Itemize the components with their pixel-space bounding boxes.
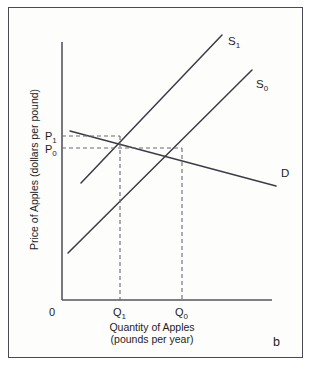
supply-demand-chart: Price of Apples (dollars per pound) P1 P… <box>0 0 311 368</box>
figure-root: Price of Apples (dollars per pound) P1 P… <box>0 0 311 368</box>
curve-label-s1: S1 <box>228 35 241 50</box>
x-axis-title: Quantity of Apples <box>109 321 194 333</box>
curve-label-s1-sub: 1 <box>236 41 241 50</box>
demand-curve-d <box>70 131 276 186</box>
curve-label-d: D <box>281 167 289 179</box>
curve-label-s0: S0 <box>256 78 269 93</box>
y-tick-label-p1-text: P <box>45 130 52 142</box>
x-axis-units: (pounds per year) <box>111 333 194 345</box>
y-tick-label-p0-sub: 0 <box>52 149 57 158</box>
x-tick-label-q0-sub: 0 <box>184 312 189 321</box>
curve-label-s0-sub: 0 <box>264 84 269 93</box>
y-tick-label-p0: P0 <box>45 143 57 158</box>
origin-label: 0 <box>49 306 55 318</box>
y-tick-label-p0-text: P <box>45 143 52 155</box>
supply-curve-s0 <box>68 70 252 253</box>
panel-letter: b <box>273 335 280 349</box>
y-axis-title: Price of Apples (dollars per pound) <box>28 89 40 250</box>
x-tick-label-q0: Q0 <box>175 306 189 321</box>
x-tick-label-q1: Q1 <box>113 306 127 321</box>
supply-curve-s1 <box>81 35 222 183</box>
x-tick-label-q1-sub: 1 <box>122 312 127 321</box>
y-tick-label-p1-sub: 1 <box>52 136 57 145</box>
